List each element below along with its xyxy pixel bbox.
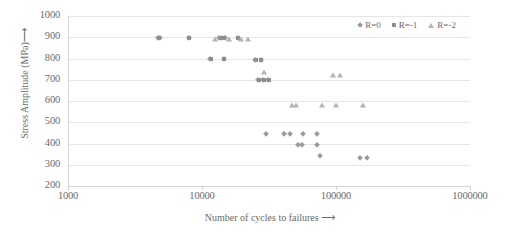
legend-item[interactable]: R=-2	[428, 20, 456, 30]
gridline-y	[68, 16, 470, 17]
plot-area	[68, 16, 470, 186]
x-tick-label: 10000	[162, 190, 242, 201]
data-point-R-2	[245, 36, 251, 41]
x-tick-mark	[470, 186, 471, 190]
data-point-R-1	[262, 78, 266, 82]
triangle-marker-icon	[428, 23, 434, 28]
diamond-marker-icon	[357, 22, 363, 28]
data-point-R-1	[267, 78, 271, 82]
data-point-R-2	[319, 103, 325, 108]
legend-label: R=-1	[399, 20, 418, 30]
x-tick-label: 1000000	[430, 190, 510, 201]
square-marker-icon	[392, 23, 396, 27]
scatter-chart: 2003004005006007008009001000 10001000010…	[0, 0, 516, 241]
gridline-y	[68, 59, 470, 60]
chart-legend: R=0R=-1R=-2	[358, 20, 456, 30]
data-point-R-2	[289, 102, 295, 107]
data-point-R-2	[238, 36, 244, 41]
x-tick-mark	[336, 186, 337, 190]
x-tick-mark	[202, 186, 203, 190]
gridline-y	[68, 37, 470, 38]
data-point-R-1	[257, 78, 261, 82]
data-point-R-1	[222, 57, 226, 61]
data-point-R-1	[157, 36, 161, 40]
data-point-R-2	[333, 103, 339, 108]
gridline-y	[68, 144, 470, 145]
legend-label: R=0	[365, 20, 381, 30]
x-tick-label: 100000	[296, 190, 376, 201]
legend-item[interactable]: R=0	[358, 20, 381, 30]
data-point-R-2	[330, 73, 336, 78]
data-point-R-2	[360, 103, 366, 108]
gridline-y	[68, 101, 470, 102]
x-axis-title: Number of cycles to failures ⟶	[120, 212, 420, 223]
legend-label: R=-2	[437, 20, 456, 30]
y-tick-label: 200	[16, 179, 60, 190]
data-point-R-2	[226, 36, 232, 41]
gridline-y	[68, 165, 470, 166]
y-axis-line	[68, 16, 69, 186]
x-tick-label: 1000	[28, 190, 108, 201]
legend-item[interactable]: R=-1	[392, 20, 418, 30]
data-point-R-2	[261, 70, 267, 75]
data-point-R-1	[209, 57, 213, 61]
data-point-R-1	[187, 36, 191, 40]
data-point-R-1	[259, 58, 263, 62]
data-point-R-2	[212, 36, 218, 41]
gridline-y	[68, 122, 470, 123]
data-point-R-1	[254, 58, 258, 62]
y-axis-title: Stress Amplitude (MPa)⟶	[19, 4, 30, 164]
x-tick-mark	[68, 186, 69, 190]
x-axis-line	[68, 186, 470, 187]
data-point-R-2	[337, 73, 343, 78]
